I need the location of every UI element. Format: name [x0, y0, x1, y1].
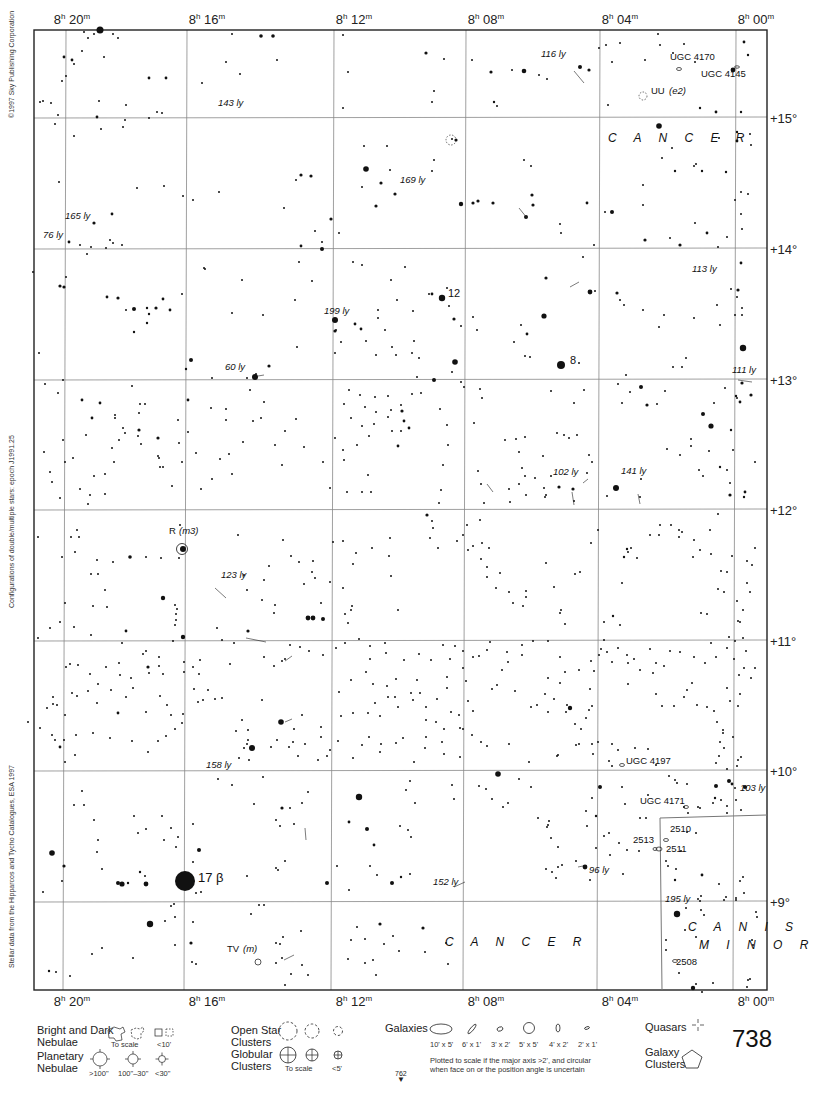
star [717, 246, 719, 248]
star [375, 354, 377, 356]
star [557, 361, 565, 369]
star [122, 427, 124, 429]
star [277, 869, 279, 871]
star [612, 615, 614, 617]
ra-label: 8h 12m [336, 994, 372, 1009]
star [361, 744, 363, 746]
star [740, 809, 742, 811]
star [737, 620, 739, 622]
galaxy-icon [664, 839, 669, 842]
star [725, 171, 727, 173]
star [564, 623, 566, 625]
star [740, 381, 743, 384]
legend-globular-small: <5' [332, 1064, 342, 1073]
star [171, 485, 173, 487]
star [416, 679, 418, 681]
star [58, 284, 61, 287]
object-label: 103 ly [740, 782, 765, 793]
star [395, 742, 397, 744]
star [529, 356, 531, 358]
star [719, 741, 721, 743]
star [137, 832, 139, 834]
star [116, 296, 119, 299]
star [424, 51, 427, 54]
star [443, 58, 445, 60]
star [425, 719, 427, 721]
star [528, 761, 530, 763]
star [663, 665, 665, 667]
star [740, 345, 746, 351]
star [571, 487, 574, 490]
star [304, 743, 306, 745]
star [275, 942, 277, 944]
star [374, 204, 377, 207]
star [348, 389, 350, 391]
star [747, 193, 749, 195]
star [64, 602, 66, 604]
star [723, 747, 725, 749]
star [59, 497, 61, 499]
star [281, 957, 283, 959]
star [588, 709, 590, 711]
star [192, 199, 194, 201]
star [294, 299, 296, 301]
star [121, 244, 123, 246]
star [491, 201, 494, 204]
star [726, 571, 728, 573]
star [542, 455, 544, 457]
star [384, 329, 386, 331]
ra-label: 8h 00m [738, 12, 774, 27]
star [52, 696, 54, 698]
adjacent-chart-link[interactable]: 762 ▼ [395, 1070, 407, 1083]
star [386, 145, 388, 147]
star [378, 922, 381, 925]
star [416, 376, 418, 378]
star [451, 371, 453, 373]
star [352, 712, 354, 714]
star [183, 671, 185, 673]
star [356, 926, 358, 928]
star [627, 662, 629, 664]
star [79, 488, 81, 490]
star [373, 423, 375, 425]
star [137, 428, 140, 431]
star [452, 359, 458, 365]
galaxy-size-caption: 2' x 1' [578, 1040, 597, 1049]
star [645, 403, 648, 406]
ra-label: 8h 04m [602, 12, 638, 27]
object-label: 113 ly [692, 263, 717, 274]
star [460, 325, 462, 327]
star [740, 191, 742, 193]
star [217, 778, 219, 780]
star [476, 199, 479, 202]
star [112, 561, 114, 563]
ra-label: 8h 20m [54, 12, 90, 27]
star [279, 825, 281, 827]
star [298, 561, 300, 563]
star [586, 472, 588, 474]
star [611, 661, 613, 663]
star [42, 891, 44, 893]
star [76, 529, 78, 531]
star [174, 916, 176, 918]
star [524, 355, 526, 357]
star [467, 700, 469, 702]
star [442, 464, 444, 466]
star [658, 534, 660, 536]
star [290, 555, 292, 557]
star [732, 736, 734, 738]
star [303, 583, 305, 585]
star [514, 690, 516, 692]
star [144, 882, 149, 887]
star [546, 78, 548, 80]
star [629, 391, 631, 393]
star [708, 450, 710, 452]
star [90, 573, 92, 575]
star [131, 385, 133, 387]
star [446, 687, 448, 689]
star [754, 547, 756, 549]
star [347, 71, 349, 73]
star [454, 645, 456, 647]
star [627, 683, 629, 685]
motion-vector [285, 656, 292, 661]
